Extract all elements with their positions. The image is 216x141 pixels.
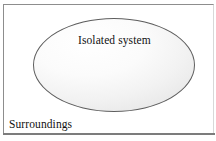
surroundings-label: Surroundings [9,119,72,131]
surroundings-bottom-rule [3,133,215,135]
figure-canvas: Isolated system Surroundings [0,0,216,141]
isolated-system-ellipse [33,18,195,112]
isolated-system-label: Isolated system [78,35,151,47]
